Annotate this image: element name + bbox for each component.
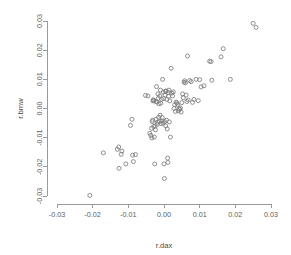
data-point — [196, 99, 200, 103]
data-point — [168, 135, 172, 139]
data-point — [101, 151, 105, 155]
y-tick-label: 0.01 — [35, 72, 44, 86]
axes-layer — [43, 21, 271, 208]
x-tick-label: -0.03 — [49, 210, 65, 219]
x-tick-label: 0.01 — [193, 210, 207, 219]
data-point — [251, 21, 255, 25]
data-point — [133, 153, 137, 157]
data-point — [254, 25, 258, 29]
data-point — [228, 77, 232, 81]
data-point — [146, 94, 150, 98]
data-point — [166, 156, 170, 160]
y-tick-label: -0.02 — [35, 159, 44, 175]
data-point — [166, 160, 170, 164]
data-point — [117, 166, 121, 170]
data-point — [161, 77, 165, 81]
x-tick-label: 0.02 — [228, 210, 242, 219]
data-point — [124, 162, 128, 166]
data-point — [186, 54, 190, 58]
data-point — [169, 66, 173, 70]
data-point — [162, 177, 166, 181]
y-tick-label: -0.01 — [35, 129, 44, 145]
data-point — [128, 123, 132, 127]
data-point — [155, 85, 159, 89]
scatter-plot-figure: -0.03-0.02-0.010.000.010.020.03-0.03-0.0… — [0, 0, 291, 255]
chart-canvas: -0.03-0.02-0.010.000.010.020.03-0.03-0.0… — [0, 0, 291, 255]
x-tick-label: -0.01 — [120, 210, 136, 219]
y-tick-label: -0.03 — [35, 188, 44, 204]
data-point — [153, 162, 157, 166]
data-point — [130, 117, 134, 121]
y-tick-label: 0.02 — [35, 43, 44, 57]
y-axis-title: r.bmw — [16, 98, 25, 119]
data-point — [152, 135, 156, 139]
data-point — [162, 162, 166, 166]
data-point — [219, 55, 223, 59]
data-point — [210, 78, 214, 82]
y-tick-label: 0.03 — [35, 14, 44, 28]
x-tick-label: 0.00 — [157, 210, 171, 219]
data-points-layer — [88, 21, 258, 197]
x-tick-label: 0.03 — [264, 210, 278, 219]
y-tick-label: 0.00 — [35, 102, 44, 116]
data-point — [180, 101, 184, 105]
data-point — [88, 193, 92, 197]
x-axis-title: r.dax — [156, 241, 173, 250]
data-point — [184, 93, 188, 97]
axis-labels-layer: -0.03-0.02-0.010.000.010.020.03-0.03-0.0… — [16, 14, 278, 250]
x-tick-label: -0.02 — [84, 210, 100, 219]
data-point — [221, 47, 225, 51]
data-point — [131, 160, 135, 164]
